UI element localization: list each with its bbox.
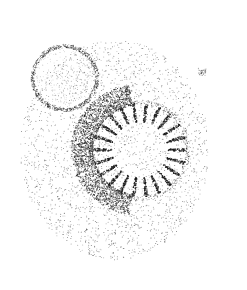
stipple-illustration [0,0,247,290]
background [0,0,247,290]
